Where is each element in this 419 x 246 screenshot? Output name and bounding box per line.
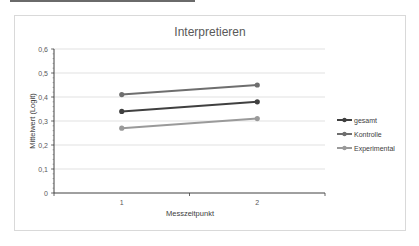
y-tick-label: 0,5	[38, 70, 48, 77]
legend: gesamtKontrolleExperimental	[337, 117, 395, 153]
legend-item: gesamt	[337, 117, 377, 125]
x-axis-ticks: 12	[54, 193, 325, 206]
x-tick-label: 2	[255, 199, 259, 206]
legend-marker	[342, 118, 346, 122]
series-gesamt	[119, 99, 260, 114]
legend-label: Kontrolle	[354, 131, 382, 138]
legend-label: gesamt	[354, 117, 377, 125]
legend-item: Kontrolle	[337, 131, 382, 138]
y-tick-label: 0,3	[38, 118, 48, 125]
legend-label: Experimental	[354, 145, 395, 153]
legend-item: Experimental	[337, 145, 395, 153]
data-point	[119, 126, 124, 131]
data-point	[255, 82, 260, 87]
x-tick-label: 1	[120, 199, 124, 206]
y-tick-label: 0,4	[38, 94, 48, 101]
y-axis-ticks: 00,10,20,30,40,50,6	[38, 46, 54, 197]
legend-marker	[342, 146, 346, 150]
series-group	[119, 82, 260, 130]
data-point	[119, 92, 124, 97]
line-chart: Interpretieren 00,10,20,30,40,50,6 12 Mi…	[0, 0, 419, 246]
series-experimental	[119, 116, 260, 131]
x-axis-label: Messzeitpunkt	[166, 209, 215, 218]
series-line	[122, 85, 258, 95]
y-axis-label: Mittelwert (Logit)	[28, 93, 37, 149]
y-tick-label: 0,2	[38, 142, 48, 149]
gridlines	[54, 49, 325, 169]
data-point	[255, 116, 260, 121]
y-tick-label: 0,6	[38, 46, 48, 53]
data-point	[255, 99, 260, 104]
legend-marker	[342, 132, 346, 136]
series-kontrolle	[119, 82, 260, 97]
y-tick-label: 0	[44, 190, 48, 197]
y-tick-label: 0,1	[38, 166, 48, 173]
chart-title: Interpretieren	[174, 25, 245, 39]
data-point	[119, 109, 124, 114]
series-line	[122, 119, 258, 129]
series-line	[122, 102, 258, 112]
